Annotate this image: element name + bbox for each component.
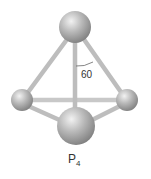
bond-top-right	[83, 38, 123, 95]
bond-top-left	[26, 38, 68, 95]
p4-tetrahedron-diagram: 60 P4	[0, 0, 151, 179]
molecule-symbol: P	[68, 152, 76, 166]
molecule-label: P4	[68, 152, 81, 168]
molecule-subscript: 4	[76, 159, 81, 168]
atom-bottom	[57, 107, 95, 145]
atom-top	[59, 11, 91, 43]
angle-label: 60	[81, 69, 93, 80]
atom-right	[116, 89, 138, 111]
angle-arc	[76, 62, 93, 66]
atom-left	[11, 89, 33, 111]
